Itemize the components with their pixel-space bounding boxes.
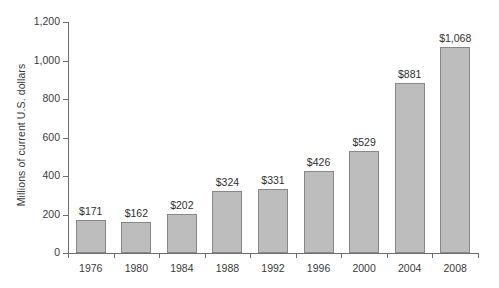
- y-tick-label: 400: [2, 170, 60, 181]
- bar: [76, 220, 106, 253]
- y-tick: [63, 138, 68, 139]
- x-tick: [159, 253, 160, 258]
- y-tick-label: 0: [2, 247, 60, 258]
- x-tick-label: 2008: [425, 262, 485, 274]
- x-tick: [205, 253, 206, 258]
- y-tick: [63, 176, 68, 177]
- bar: [121, 222, 151, 253]
- y-tick-label: 800: [2, 93, 60, 104]
- bar: [440, 47, 470, 253]
- x-tick: [478, 253, 479, 258]
- x-tick: [114, 253, 115, 258]
- y-tick-label: 1,000: [2, 55, 60, 66]
- x-tick: [387, 253, 388, 258]
- bar: [212, 191, 242, 253]
- y-tick-label-wrap: 1,200: [0, 16, 60, 27]
- y-tick-label: 600: [2, 132, 60, 143]
- y-tick: [63, 22, 68, 23]
- bar-chart: Millions of current U.S. dollars 0200400…: [0, 0, 499, 288]
- x-tick: [341, 253, 342, 258]
- bar-value-label: $202: [147, 199, 217, 211]
- x-tick: [68, 253, 69, 258]
- x-axis-line: [68, 253, 479, 254]
- bar: [349, 151, 379, 253]
- y-tick-label-wrap: 200: [0, 209, 60, 220]
- y-tick-label-wrap: 400: [0, 170, 60, 181]
- bar: [304, 171, 334, 253]
- x-tick: [432, 253, 433, 258]
- bar: [395, 83, 425, 253]
- y-tick: [63, 99, 68, 100]
- y-tick-label: 1,200: [2, 16, 60, 27]
- y-tick-label-wrap: 1,000: [0, 55, 60, 66]
- y-tick-label: 200: [2, 209, 60, 220]
- bar: [167, 214, 197, 253]
- y-tick-label-wrap: 600: [0, 132, 60, 143]
- x-tick: [296, 253, 297, 258]
- y-axis-line: [68, 22, 69, 254]
- bar-value-label: $426: [284, 156, 354, 168]
- bar: [258, 189, 288, 253]
- y-tick-label-wrap: 800: [0, 93, 60, 104]
- bar-value-label: $529: [329, 136, 399, 148]
- y-tick-label-wrap: 0: [0, 247, 60, 258]
- bar-value-label: $331: [238, 174, 308, 186]
- y-tick: [63, 61, 68, 62]
- bar-value-label: $881: [375, 68, 445, 80]
- bar-value-label: $1,068: [420, 32, 490, 44]
- x-tick: [250, 253, 251, 258]
